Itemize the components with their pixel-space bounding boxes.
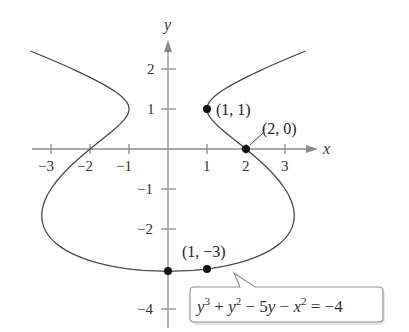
y-tick-label: −2 bbox=[137, 221, 153, 237]
implicit-curve-plot: −3 −2 −1 1 2 3 2 1 −1 −2 −4 x y (1, 1) (… bbox=[0, 0, 409, 332]
x-tick-label: −2 bbox=[77, 158, 93, 174]
x-axis-arrow-icon bbox=[306, 145, 318, 153]
point-label-1-m3: (1, −3) bbox=[182, 243, 226, 261]
y-tick-label: −4 bbox=[137, 301, 153, 317]
point-0-m3 bbox=[164, 267, 172, 275]
y-tick-label: 2 bbox=[147, 61, 155, 77]
y-axis-label: y bbox=[162, 16, 172, 34]
y-tick-label: 1 bbox=[147, 101, 155, 117]
x-tick-label: 2 bbox=[242, 158, 250, 174]
y-tick-label: −1 bbox=[137, 181, 153, 197]
x-tick-label: 1 bbox=[203, 158, 211, 174]
x-tick-label: 3 bbox=[281, 158, 289, 174]
point-label-1-1: (1, 1) bbox=[216, 101, 251, 119]
point-1-1 bbox=[203, 105, 211, 113]
axes bbox=[32, 40, 318, 328]
point-label-2-0: (2, 0) bbox=[262, 120, 297, 138]
equation-text: y3 + y2 − 5y − x2 = −4 bbox=[195, 295, 343, 316]
x-axis-label: x bbox=[322, 140, 330, 157]
x-tick-label: −1 bbox=[116, 158, 132, 174]
point-2-0 bbox=[242, 145, 250, 153]
x-tick-label: −3 bbox=[38, 158, 54, 174]
equation-callout: y3 + y2 − 5y − x2 = −4 bbox=[190, 273, 385, 325]
point-1-m3 bbox=[203, 265, 211, 273]
y-axis-arrow-icon bbox=[164, 40, 172, 52]
